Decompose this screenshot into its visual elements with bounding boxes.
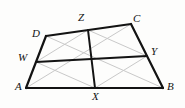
midpoint-label-X: X (92, 91, 99, 102)
midpoint-label-Y: Y (151, 46, 157, 57)
diagonal-BD (46, 36, 163, 88)
midpoint-label-W: W (18, 52, 27, 63)
vertex-label-D: D (32, 28, 40, 39)
midpoint-label-Z: Z (78, 12, 84, 23)
geometry-figure: A B C D W X Y Z (0, 0, 185, 108)
diagonal-AC (26, 24, 131, 88)
vertex-label-B: B (167, 81, 174, 92)
vertex-label-A: A (15, 81, 22, 92)
vertex-label-C: C (133, 13, 140, 24)
varignon-XW (36, 62, 95, 88)
varignon-ZY (88, 30, 147, 56)
